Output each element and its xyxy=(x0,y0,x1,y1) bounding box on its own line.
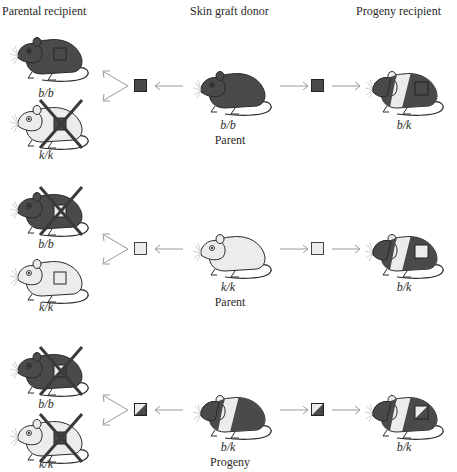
graft-square-dark xyxy=(311,79,325,93)
genotype-label: b/k xyxy=(397,118,412,133)
genotype-label: k/k xyxy=(39,457,53,472)
arrow-left-icon xyxy=(153,243,185,255)
genotype-label: b/k xyxy=(397,280,412,295)
arrow-left-icon xyxy=(153,404,185,416)
arrows-to-recipients xyxy=(100,392,130,428)
donor-role-label: Parent xyxy=(215,295,246,310)
graft-square-split xyxy=(134,403,148,417)
header-progeny-recipient: Progeny recipient xyxy=(356,4,441,19)
mouse-banded-recipient xyxy=(367,386,445,444)
genotype-label: k/k xyxy=(39,300,53,315)
header-skin-graft-donor: Skin graft donor xyxy=(190,4,269,19)
graft-patch xyxy=(54,48,66,60)
graft-patch xyxy=(415,406,428,419)
header-parental-recipient: Parental recipient xyxy=(2,4,86,19)
arrow-right-icon xyxy=(330,404,362,416)
mouse-banded-recipient xyxy=(367,225,445,283)
graft-patch xyxy=(415,82,428,95)
genotype-label: k/k xyxy=(221,280,235,295)
donor-role-label: Progeny xyxy=(210,455,250,470)
genotype-label: b/b xyxy=(220,118,235,133)
arrow-left-icon xyxy=(153,80,185,92)
graft-square-light xyxy=(134,242,148,256)
genotype-label: b/k xyxy=(221,440,236,455)
arrow-right-icon xyxy=(278,404,310,416)
graft-square-light xyxy=(311,242,325,256)
mouse-banded-donor xyxy=(195,386,273,444)
arrow-right-icon xyxy=(330,80,362,92)
mouse-dark-recipient xyxy=(12,28,90,86)
graft-patch xyxy=(415,245,428,258)
graft-square-dark xyxy=(134,79,148,93)
arrow-right-icon xyxy=(278,80,310,92)
mouse-dark-recipient xyxy=(12,343,90,401)
genotype-label: b/k xyxy=(397,440,412,455)
arrow-right-icon xyxy=(278,243,310,255)
mouse-banded-recipient xyxy=(367,62,445,120)
mouse-light-recipient xyxy=(12,96,90,154)
mouse-light-donor xyxy=(195,225,273,283)
mouse-dark-donor xyxy=(195,62,273,120)
arrows-to-recipients xyxy=(100,231,130,267)
genotype-label: k/k xyxy=(39,148,53,163)
graft-square-split xyxy=(311,403,325,417)
donor-role-label: Parent xyxy=(215,133,246,148)
graft-patch xyxy=(54,272,66,284)
mouse-dark-recipient xyxy=(12,183,90,241)
arrows-to-recipients xyxy=(100,68,130,104)
arrow-right-icon xyxy=(330,243,362,255)
